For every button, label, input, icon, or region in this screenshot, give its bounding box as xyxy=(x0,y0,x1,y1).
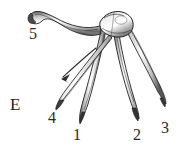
panel-letter-E: E xyxy=(10,96,21,113)
digit-label-4: 4 xyxy=(48,110,56,126)
digit-label-3: 3 xyxy=(161,120,169,136)
specimen-drawing xyxy=(0,0,185,156)
digit-label-2: 2 xyxy=(133,127,141,143)
digit-label-5: 5 xyxy=(29,26,37,42)
hallux-digit-5 xyxy=(28,11,101,35)
digit-label-1: 1 xyxy=(73,127,81,143)
figure-panel: E 5 4 1 2 3 xyxy=(0,0,185,156)
tarsal-junction xyxy=(100,11,133,37)
